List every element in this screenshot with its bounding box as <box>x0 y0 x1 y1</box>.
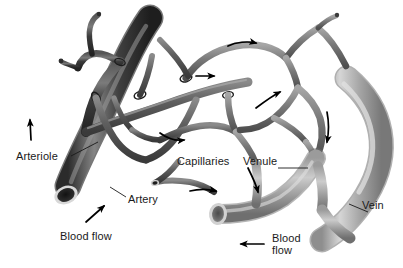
vessel-illustration <box>0 0 403 268</box>
label-blood-flow-right: Blood flow <box>272 232 312 256</box>
vein-downward-arrow <box>327 112 329 142</box>
label-blood-flow-right-line1: Blood <box>272 232 301 244</box>
label-vein: Vein <box>362 199 384 211</box>
capillary-arrow-bottom <box>190 190 216 192</box>
label-venule: Venule <box>243 155 277 167</box>
label-arteriole: Arteriole <box>16 150 58 162</box>
label-blood-flow-left: Blood flow <box>60 230 112 242</box>
label-blood-flow-right-line2: flow <box>272 244 292 256</box>
artery-inflow-arrow <box>86 206 104 222</box>
artery-leader-line <box>110 187 126 197</box>
label-capillaries: Capillaries <box>177 155 229 167</box>
arteriole-upward-arrow <box>30 120 31 140</box>
label-artery: Artery <box>128 193 158 205</box>
capillary-bed-diagram: Arteriole Artery Capillaries Venule Vein… <box>0 0 403 268</box>
capillary-arrow-right-curve <box>256 92 280 108</box>
venule-vessel <box>208 158 350 238</box>
